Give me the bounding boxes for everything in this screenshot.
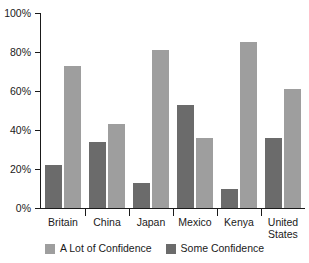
y-axis-tick-label: 40% [10, 125, 31, 135]
y-axis-tick-mark [35, 13, 40, 14]
y-axis-tick-mark [35, 91, 40, 92]
bar-a-lot-of-confidence [64, 66, 81, 208]
x-axis-tick-mark [217, 209, 218, 216]
bar-group [129, 13, 173, 208]
x-axis-tick-mark [261, 209, 262, 216]
y-axis-tick-mark [35, 208, 40, 209]
chart-legend: A Lot of ConfidenceSome Confidence [0, 243, 309, 254]
legend-item[interactable]: Some Confidence [166, 243, 264, 254]
x-axis-label: Britain [48, 217, 78, 229]
bar-group [261, 13, 305, 208]
bar-some-confidence [177, 105, 194, 208]
x-axis-tick-mark [129, 209, 130, 216]
bar-a-lot-of-confidence [240, 42, 257, 208]
bar-some-confidence [45, 165, 62, 208]
x-axis-label: China [93, 217, 120, 229]
legend-label: Some Confidence [181, 243, 264, 254]
legend-swatch-icon [45, 244, 55, 254]
x-axis-tick-mark [85, 209, 86, 216]
bar-a-lot-of-confidence [284, 89, 301, 208]
legend-swatch-icon [166, 244, 176, 254]
bar-a-lot-of-confidence [108, 124, 125, 208]
y-axis-tick-label: 0% [16, 203, 31, 213]
bar-some-confidence [133, 183, 150, 208]
bar-group [41, 13, 85, 208]
legend-item[interactable]: A Lot of Confidence [45, 243, 152, 254]
legend-label: A Lot of Confidence [60, 243, 152, 254]
y-axis-tick-mark [35, 169, 40, 170]
y-axis: 0%20%40%60%80%100% [0, 0, 34, 215]
y-axis-tick-mark [35, 130, 40, 131]
bar-group [217, 13, 261, 208]
bar-some-confidence [89, 142, 106, 208]
y-axis-tick-label: 80% [10, 47, 31, 57]
x-axis-label: United States [268, 217, 298, 240]
x-axis-label: Mexico [178, 217, 211, 229]
bar-a-lot-of-confidence [196, 138, 213, 208]
y-axis-tick-label: 60% [10, 86, 31, 96]
y-axis-tick-label: 20% [10, 164, 31, 174]
y-axis-tick-mark [35, 52, 40, 53]
x-axis-label: Kenya [224, 217, 254, 229]
y-axis-tick-label: 100% [4, 8, 31, 18]
bar-some-confidence [221, 189, 238, 209]
plot-area [41, 13, 305, 208]
bar-group [173, 13, 217, 208]
x-axis-label: Japan [137, 217, 166, 229]
bar-some-confidence [265, 138, 282, 208]
bar-a-lot-of-confidence [152, 50, 169, 208]
x-axis-tick-mark [173, 209, 174, 216]
bar-group [85, 13, 129, 208]
bar-chart: 0%20%40%60%80%100% A Lot of ConfidenceSo… [0, 0, 309, 263]
